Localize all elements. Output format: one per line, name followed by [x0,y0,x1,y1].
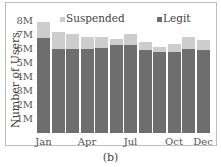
bar-jan [37,22,50,133]
x-tick-label: Apr [78,136,96,147]
bar-apr [81,37,94,133]
legend-swatch-suspended [60,17,65,22]
plot-area [36,10,214,133]
bar-segment-legit [153,52,166,133]
y-tick-label: 4M [11,72,33,82]
bar-segment-legit [197,50,210,133]
legend-suspended: Suspended [60,12,125,24]
y-tick-label: 8M [11,16,33,26]
bar-segment-legit [110,45,123,133]
bar-may [95,37,108,133]
x-tick-label: Dec [193,136,213,147]
y-tick-label: 7M [11,30,33,40]
bar-segment-suspended [168,44,181,52]
y-tick-label: 2M [11,100,33,110]
bar-segment-suspended [153,47,166,52]
bar-jul [124,34,137,133]
bar-segment-legit [95,48,108,133]
bar-segment-legit [66,49,79,133]
x-tick-label: Jan [35,136,51,147]
bar-segment-legit [139,50,152,133]
bar-nov [182,37,195,133]
y-tick-label: 5M [11,58,33,68]
bar-segment-suspended [197,40,210,51]
bar-segment-legit [168,52,181,133]
figure-caption: (b) [0,151,221,164]
legend-legit: Legit [157,12,191,24]
legend-swatch-legit [157,17,162,22]
bar-segment-legit [37,38,50,133]
bar-feb [52,32,65,133]
bar-aug [139,42,152,133]
legend-label-legit: Legit [163,12,191,24]
x-tick-label: Jul [124,136,138,147]
bar-segment-suspended [37,22,50,37]
bar-dec [197,40,210,133]
bar-sep [153,47,166,133]
bar-segment-legit [52,49,65,133]
x-tick-label: Oct [165,136,183,147]
bar-segment-suspended [110,39,123,45]
bar-segment-suspended [95,37,108,48]
bar-jun [110,39,123,133]
bar-segment-suspended [52,32,65,49]
bar-oct [168,44,181,133]
y-tick-label: 1M [11,114,33,124]
bar-mar [66,34,79,133]
bar-segment-legit [182,49,195,133]
bar-segment-legit [81,49,94,133]
bar-segment-suspended [182,37,195,49]
legend-label-suspended: Suspended [66,12,125,24]
bar-segment-legit [124,45,137,133]
bar-segment-suspended [81,37,94,49]
bar-segment-suspended [124,34,137,45]
y-tick-label: 3M [11,86,33,96]
y-tick-label: 6M [11,44,33,54]
bar-segment-suspended [139,42,152,50]
bar-segment-suspended [66,34,79,49]
